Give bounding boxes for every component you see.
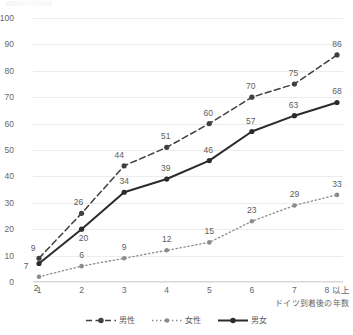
data-point-marker xyxy=(79,264,84,269)
data-point-marker xyxy=(122,256,127,261)
data-point-marker xyxy=(292,81,297,86)
data-point-marker xyxy=(207,240,212,245)
legend-label: 男女 xyxy=(251,316,267,325)
data-point-marker xyxy=(292,113,297,118)
data-label: 46 xyxy=(204,145,213,154)
data-label: 26 xyxy=(74,198,83,207)
x-axis-tick-label: 4 xyxy=(164,286,169,295)
data-point-marker xyxy=(249,95,254,100)
data-point-marker xyxy=(79,211,84,216)
y-axis-tick-label: 30 xyxy=(0,199,14,208)
legend-item-2[interactable]: 女性 xyxy=(152,316,201,325)
data-point-marker xyxy=(36,261,41,266)
data-point-marker xyxy=(37,274,42,279)
data-label: 23 xyxy=(247,206,256,215)
data-point-marker xyxy=(207,121,212,126)
x-axis-tick-label: 7 xyxy=(292,286,297,295)
data-point-marker xyxy=(207,158,212,163)
x-axis-title: ドイツ到着後の年数 xyxy=(275,299,349,308)
data-point-marker xyxy=(334,100,339,105)
plot-area: 9264451607075862691215232933720343946576… xyxy=(33,18,343,282)
data-point-marker xyxy=(250,219,255,224)
y-axis-tick-label: 0 xyxy=(0,278,14,287)
data-label: 57 xyxy=(246,116,255,125)
data-label: 51 xyxy=(161,132,170,141)
data-point-marker xyxy=(335,193,340,198)
x-axis-tick-label: 5 xyxy=(207,286,212,295)
legend-item-3[interactable]: 男女 xyxy=(218,316,267,325)
clipped-title-artifact xyxy=(6,1,52,6)
y-axis-tick-label: 90 xyxy=(0,40,14,49)
data-point-marker xyxy=(164,248,169,253)
data-label: 39 xyxy=(161,164,170,173)
x-axis-tick-label: 2 xyxy=(79,286,84,295)
data-point-marker xyxy=(334,52,339,57)
data-label: 70 xyxy=(246,82,255,91)
data-label: 75 xyxy=(289,69,298,78)
x-axis-tick-label: 6 xyxy=(249,286,254,295)
data-label: 44 xyxy=(114,151,123,160)
legend-marker-icon xyxy=(152,316,182,325)
y-axis-tick-label: 50 xyxy=(0,146,14,155)
legend-marker-icon xyxy=(86,316,116,325)
data-label: 33 xyxy=(332,180,341,189)
data-label: 29 xyxy=(290,190,299,199)
data-point-marker xyxy=(164,145,169,150)
data-label: 34 xyxy=(119,177,128,186)
y-axis-tick-label: 80 xyxy=(0,67,14,76)
x-axis-tick-label: 8 以上 xyxy=(324,286,349,295)
data-point-marker xyxy=(36,256,41,261)
legend-label: 女性 xyxy=(185,316,201,325)
data-label: 60 xyxy=(204,108,213,117)
legend-item-1[interactable]: 男性 xyxy=(86,316,135,325)
x-axis-tick-label: 1 xyxy=(37,286,42,295)
y-axis-tick-label: 70 xyxy=(0,93,14,102)
data-point-marker xyxy=(292,203,297,208)
data-label: 9 xyxy=(31,244,36,253)
data-point-marker xyxy=(249,129,254,134)
data-label: 63 xyxy=(289,100,298,109)
y-axis-tick-label: 10 xyxy=(0,252,14,261)
data-point-marker xyxy=(122,190,127,195)
y-axis-tick-label: 20 xyxy=(0,225,14,234)
legend-label: 男性 xyxy=(119,316,135,325)
data-label: 9 xyxy=(122,243,127,252)
line-chart: 0102030405060708090100 92644516070758626… xyxy=(0,0,353,335)
gridline xyxy=(33,282,343,283)
data-label: 86 xyxy=(332,40,341,49)
chart-legend: 男性女性男女 xyxy=(0,316,353,325)
data-label: 15 xyxy=(205,227,214,236)
legend-marker-icon xyxy=(218,316,248,325)
data-label: 20 xyxy=(79,234,88,243)
data-label: 68 xyxy=(332,87,341,96)
data-point-marker xyxy=(164,176,169,181)
data-label: 7 xyxy=(24,261,29,270)
y-axis-tick-label: 40 xyxy=(0,172,14,181)
data-label: 6 xyxy=(79,251,84,260)
x-axis-tick-label: 3 xyxy=(122,286,127,295)
data-label: 12 xyxy=(162,235,171,244)
y-axis-tick-label: 100 xyxy=(0,14,14,23)
data-point-marker xyxy=(79,227,84,232)
y-axis-tick-label: 60 xyxy=(0,120,14,129)
data-point-marker xyxy=(122,163,127,168)
